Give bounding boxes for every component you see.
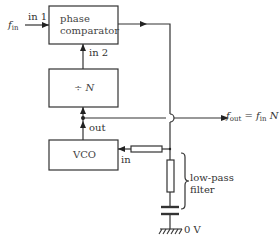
arrow-to-divider [80,107,86,114]
arrow-vco-out [80,121,86,128]
ground-label: 0 V [184,224,201,235]
crossover-hop [170,114,174,122]
filter-brace [181,153,189,209]
out-label: out [89,122,105,133]
series-resistor [131,146,162,152]
in1-label: in 1 [28,11,47,22]
arrow-vco-in [118,146,125,152]
vco-label: VCO [73,149,96,161]
f-out-label: fout = fin N [226,110,278,125]
shunt-resistor [167,160,174,192]
vco-in-label: in [121,154,131,165]
arrow-in1 [42,22,49,28]
in2-label: in 2 [89,47,108,58]
arrow-in2 [80,44,86,51]
divider-label: ÷ N [74,82,94,94]
f-in-label: fin [8,19,18,34]
phase-comparator-label: phase comparator [60,13,119,37]
junction-dot [81,116,85,120]
arrow-comparator-out [140,21,147,27]
low-pass-filter-label: low-pass filter [190,172,234,196]
junction-dot-filter [169,148,171,150]
comparator-output-line [118,24,170,114]
